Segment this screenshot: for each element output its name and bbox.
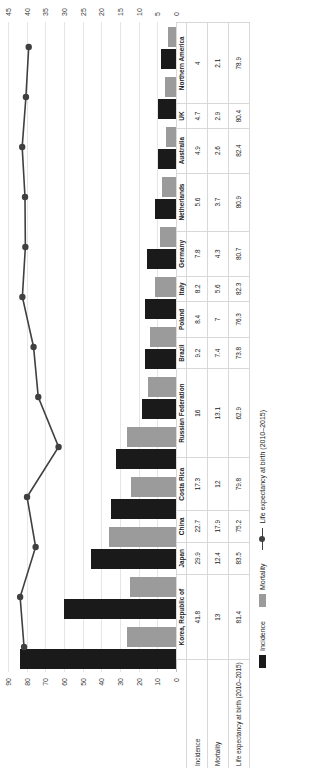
table-cell: 2.1 [208,23,229,105]
table-column-header: Costa Rica [177,458,187,511]
table-column-header: Brazil [177,338,187,369]
table-cell: 2.6 [208,128,229,173]
chart-legend: IncidenceMortalityLife expectancy at bir… [258,410,266,668]
table-cell: 7 [208,301,229,337]
table-cell: 80.7 [229,231,250,276]
table-column-header: UK [177,104,187,128]
table-cell: 12 [208,458,229,511]
table-cell: 81.4 [229,575,250,660]
primary-axis-tick-label: 40 [98,678,105,686]
table-column-header: Germany [177,231,187,276]
legend-item-label: Mortality [259,564,266,590]
table-cell: 7.8 [187,231,208,276]
table-cell: 2.9 [208,104,229,128]
table-cell: 62.9 [229,369,250,458]
table-cell: 7.4 [208,338,229,369]
legend-item-label: Incidence [259,621,266,651]
line-marker [26,44,32,50]
line-marker [19,294,25,300]
life-expectancy-line [20,47,58,647]
table-row: Incidence41.829.922.717.3169.28.48.27.85… [187,23,208,768]
table-column-header: Australia [177,128,187,173]
primary-axis-tick-label: 80 [23,678,30,686]
table-cell: 73.8 [229,338,250,369]
secondary-axis-tick-label: 30 [61,8,68,16]
legend-color-swatch-icon [259,594,266,607]
table-row-header: Mortality [208,660,229,768]
table-cell: 5.6 [187,173,208,231]
secondary-axis-tick-label: 20 [98,8,105,16]
primary-axis-tick-label: 30 [117,678,124,686]
legend-item[interactable]: Incidence [259,621,266,668]
table-column-header: Poland [177,301,187,337]
table-cell: 8.2 [187,276,208,301]
plot-area: 0102030405060708090 051015202530354045 [8,22,176,672]
table-cell: 82.3 [229,276,250,301]
line-marker [23,94,29,100]
table-cell: 16 [187,369,208,458]
rotated-figure-wrapper: 0102030405060708090 051015202530354045 K… [0,0,317,768]
table-cell: 13.1 [208,369,229,458]
table-cell: 9.2 [187,338,208,369]
data-table: Korea, Republic ofJapanChinaCosta RicaRu… [176,22,250,768]
line-marker [19,144,25,150]
table-column-header: Netherlands [177,173,187,231]
line-marker [22,244,28,250]
primary-axis-tick-label: 90 [5,678,12,686]
line-marker [35,394,41,400]
line-marker [32,544,38,550]
line-marker [21,644,27,650]
table-cell: 78.9 [229,23,250,105]
line-marker [24,494,30,500]
table-cell: 17.9 [208,510,229,542]
table-column-header: Russian Federation [177,369,187,458]
table-cell: 80.4 [229,104,250,128]
table-column-header: Italy [177,276,187,301]
table-cell: 41.8 [187,575,208,660]
secondary-axis-tick-label: 0 [173,12,180,16]
table-cell: 4.9 [187,128,208,173]
table-corner-cell [177,660,187,768]
table-row-header: Life expectancy at birth (2010–2015) [229,660,250,768]
primary-axis-tick-label: 20 [135,678,142,686]
table-cell: 79.8 [229,458,250,511]
legend-line-swatch-icon [258,528,266,550]
primary-axis-tick-label: 50 [79,678,86,686]
secondary-axis-tick-label: 35 [42,8,49,16]
legend-item[interactable]: Mortality [259,564,266,607]
table-row: Mortality1312.417.91213.17.475.64.33.72.… [208,23,229,768]
table-cell: 82.4 [229,128,250,173]
secondary-axis-tick-label: 5 [154,12,161,16]
table-cell: 17.3 [187,458,208,511]
secondary-axis-tick-label: 15 [117,8,124,16]
table-column-header: China [177,510,187,542]
table-column-header: Korea, Republic of [177,575,187,660]
primary-axis-tick-label: 60 [61,678,68,686]
table-cell: 75.2 [229,510,250,542]
table-head: Korea, Republic ofJapanChinaCosta RicaRu… [177,23,187,768]
line-marker [30,344,36,350]
table-cell: 29.9 [187,542,208,575]
secondary-axis-tick-label: 10 [135,8,142,16]
table-cell: 3.7 [208,173,229,231]
table-cell: 5.6 [208,276,229,301]
line-series-layer [8,22,176,672]
table-row: Life expectancy at birth (2010–2015)81.4… [229,23,250,768]
chart-figure: 0102030405060708090 051015202530354045 K… [0,0,317,768]
secondary-axis-tick-label: 40 [23,8,30,16]
legend-item[interactable]: Life expectancy at birth (2010–2015) [258,410,266,550]
table-column-header: Northern America [177,23,187,105]
secondary-axis-tick-label: 45 [5,8,12,16]
table-cell: 4.7 [187,104,208,128]
table-cell: 8.4 [187,301,208,337]
legend-item-label: Life expectancy at birth (2010–2015) [259,410,266,524]
line-marker [55,444,61,450]
table-body: Incidence41.829.922.717.3169.28.48.27.85… [187,23,250,768]
table-cell: 13 [208,575,229,660]
line-marker [17,594,23,600]
table-cell: 4.3 [208,231,229,276]
primary-axis-tick-label: 10 [154,678,161,686]
table-cell: 80.9 [229,173,250,231]
line-marker [22,194,28,200]
legend-color-swatch-icon [259,655,266,668]
